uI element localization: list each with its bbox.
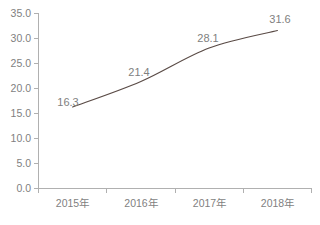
y-axis-labels: 35.0 30.0 25.0 20.0 15.0 10.0 5.0 0.0 [11,7,32,194]
x-axis-labels: 2015年 2016年 2017年 2018年 [56,197,294,209]
data-labels: 16.3 21.4 28.1 31.6 [57,13,290,108]
x-axis-ticks [39,189,312,194]
x-tick-label-2018: 2018年 [261,197,294,209]
x-tick-label-2016: 2016年 [124,197,157,209]
x-tick-label-2017: 2017年 [193,197,226,209]
chart-canvas: 35.0 30.0 25.0 20.0 15.0 10.0 5.0 0.0 20… [0,0,320,225]
data-label-2018: 31.6 [269,13,290,25]
line-chart: 35.0 30.0 25.0 20.0 15.0 10.0 5.0 0.0 20… [0,0,320,225]
y-tick-label: 10.0 [11,132,32,144]
y-tick-label: 30.0 [11,32,32,44]
y-tick-label: 0.0 [16,182,31,194]
data-label-2016: 21.4 [128,66,149,78]
data-label-2017: 28.1 [197,32,218,44]
y-axis-ticks [34,14,39,189]
series-line-path [73,31,278,108]
y-tick-label: 20.0 [11,82,32,94]
y-tick-label: 35.0 [11,7,32,19]
data-label-2015: 16.3 [57,96,78,108]
y-tick-label: 5.0 [16,157,31,169]
y-tick-label: 15.0 [11,107,32,119]
x-tick-label-2015: 2015年 [56,197,89,209]
y-tick-label: 25.0 [11,57,32,69]
